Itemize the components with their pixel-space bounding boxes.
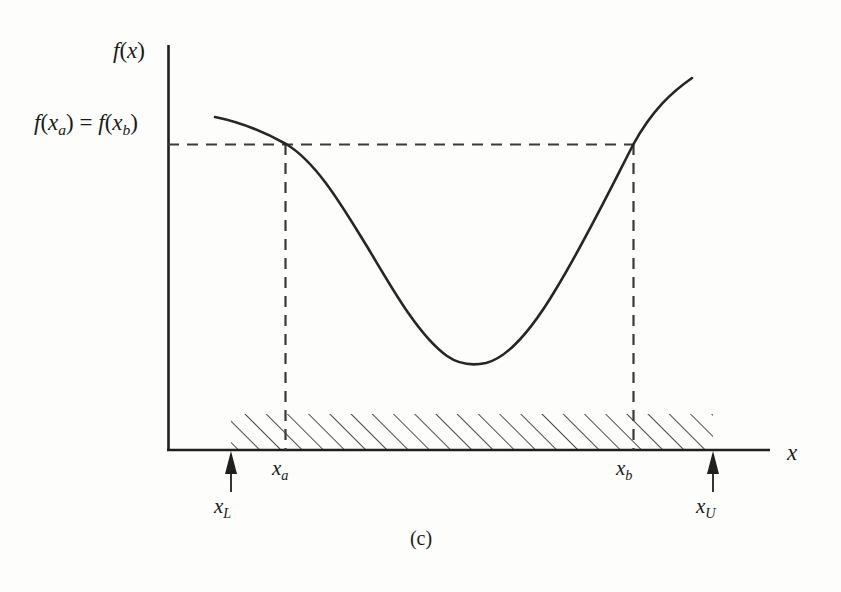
level-label-x2: x [112, 110, 122, 135]
xL-label-x: x [214, 494, 223, 518]
xb-tick-label: xb [616, 456, 632, 484]
level-label-x1: x [48, 110, 58, 135]
level-label-paren1: ( [40, 110, 48, 135]
level-label-paren4: ) [130, 110, 138, 135]
level-value-label: f(xa) = f(xb) [34, 110, 138, 139]
xL-marker-arrow [225, 451, 237, 492]
xa-tick-label: xa [272, 456, 288, 484]
y-axis-label-paren-open: ( [119, 38, 127, 63]
xU-label-sub: U [705, 505, 715, 521]
xL-bound-label: xL [214, 494, 231, 522]
level-label-paren2: ) [66, 110, 74, 135]
bracket-band-hatch [231, 414, 713, 449]
xL-label-sub: L [223, 505, 231, 521]
xa-label-x: x [272, 456, 281, 480]
xb-label-x: x [616, 456, 625, 480]
y-axis-label-paren-close: ) [137, 38, 145, 63]
xa-label-sub: a [281, 467, 288, 483]
xU-label-x: x [696, 494, 705, 518]
figure-container: f(x) f(xa) = f(xb) xa xb xL xU x (c) [0, 0, 841, 592]
xU-marker-arrow [707, 451, 719, 492]
level-label-sub-a: a [58, 121, 66, 138]
figure-caption: (c) [407, 527, 435, 550]
xb-label-sub: b [625, 467, 632, 483]
xU-bound-label: xU [696, 494, 716, 522]
y-axis-label: f(x) [113, 38, 145, 64]
x-axis-label: x [787, 440, 797, 466]
level-label-equals: = [74, 110, 98, 135]
y-axis-label-arg: x [127, 38, 137, 63]
